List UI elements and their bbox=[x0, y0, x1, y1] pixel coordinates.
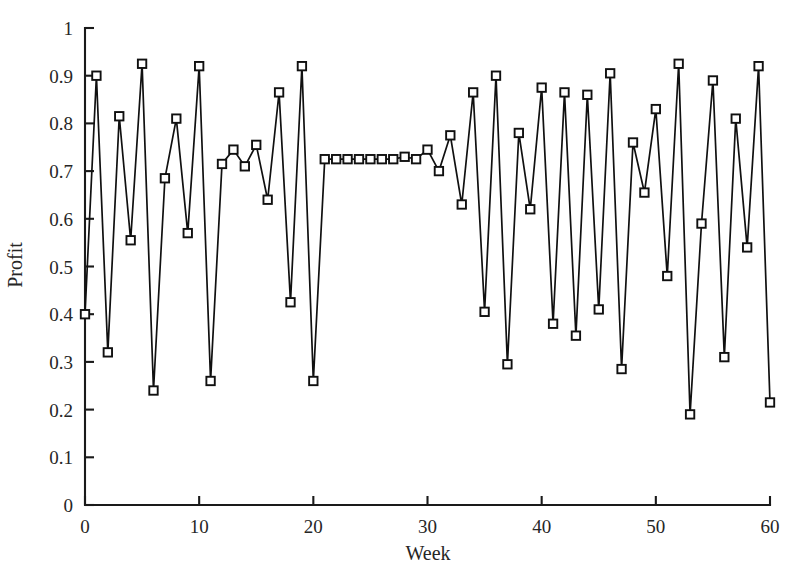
x-tick-label: 30 bbox=[418, 516, 437, 537]
data-point-marker bbox=[321, 155, 329, 163]
data-point-marker bbox=[720, 353, 728, 361]
y-tick-label: 0.7 bbox=[49, 161, 73, 182]
data-point-marker bbox=[595, 305, 603, 313]
data-point-marker bbox=[92, 72, 100, 80]
data-point-marker bbox=[206, 377, 214, 385]
data-point-marker bbox=[309, 377, 317, 385]
data-point-marker bbox=[126, 236, 134, 244]
data-point-marker bbox=[332, 155, 340, 163]
data-point-marker bbox=[218, 160, 226, 168]
data-point-marker bbox=[435, 167, 443, 175]
data-point-marker bbox=[766, 398, 774, 406]
data-point-marker bbox=[458, 200, 466, 208]
data-point-marker bbox=[697, 219, 705, 227]
data-point-marker bbox=[537, 83, 545, 91]
data-point-marker bbox=[663, 272, 671, 280]
x-tick-label: 60 bbox=[761, 516, 780, 537]
data-point-marker bbox=[515, 129, 523, 137]
data-point-marker bbox=[229, 145, 237, 153]
data-point-marker bbox=[503, 360, 511, 368]
data-point-marker bbox=[686, 410, 694, 418]
x-tick-label: 20 bbox=[304, 516, 323, 537]
profit-series-markers bbox=[81, 60, 774, 419]
profit-vs-week-line-chart: 00.10.20.30.40.50.60.70.80.91 0102030405… bbox=[0, 0, 791, 588]
data-point-marker bbox=[263, 196, 271, 204]
data-point-marker bbox=[389, 155, 397, 163]
data-point-marker bbox=[446, 131, 454, 139]
x-tick-label: 50 bbox=[646, 516, 665, 537]
data-point-marker bbox=[652, 105, 660, 113]
data-point-marker bbox=[617, 365, 625, 373]
y-tick-label: 0.3 bbox=[49, 352, 73, 373]
data-point-marker bbox=[583, 91, 591, 99]
data-point-marker bbox=[526, 205, 534, 213]
data-point-marker bbox=[640, 188, 648, 196]
data-point-marker bbox=[549, 320, 557, 328]
data-point-marker bbox=[195, 62, 203, 70]
x-tick-label: 0 bbox=[80, 516, 90, 537]
y-tick-label: 0.1 bbox=[49, 447, 73, 468]
x-axis-tick-labels: 0102030405060 bbox=[80, 516, 779, 537]
chart-figure: 00.10.20.30.40.50.60.70.80.91 0102030405… bbox=[0, 0, 791, 588]
data-point-marker bbox=[400, 153, 408, 161]
data-point-marker bbox=[149, 386, 157, 394]
data-point-marker bbox=[81, 310, 89, 318]
y-tick-label: 0 bbox=[64, 495, 74, 516]
y-tick-label: 0.5 bbox=[49, 257, 73, 278]
y-tick-label: 0.2 bbox=[49, 400, 73, 421]
y-tick-label: 0.9 bbox=[49, 66, 73, 87]
data-point-marker bbox=[184, 229, 192, 237]
data-point-marker bbox=[560, 88, 568, 96]
data-point-marker bbox=[732, 114, 740, 122]
data-point-marker bbox=[572, 331, 580, 339]
y-tick-label: 0.8 bbox=[49, 113, 73, 134]
data-point-marker bbox=[412, 155, 420, 163]
data-point-marker bbox=[629, 138, 637, 146]
data-point-marker bbox=[138, 60, 146, 68]
data-point-marker bbox=[709, 76, 717, 84]
data-point-marker bbox=[492, 72, 500, 80]
data-point-marker bbox=[252, 141, 260, 149]
data-point-marker bbox=[674, 60, 682, 68]
data-point-marker bbox=[172, 114, 180, 122]
x-tick-label: 40 bbox=[532, 516, 551, 537]
x-tick-label: 10 bbox=[190, 516, 209, 537]
y-tick-label: 0.4 bbox=[49, 304, 73, 325]
y-tick-label: 1 bbox=[64, 18, 74, 39]
y-axis-tick-labels: 00.10.20.30.40.50.60.70.80.91 bbox=[49, 18, 73, 516]
data-point-marker bbox=[115, 112, 123, 120]
data-point-marker bbox=[286, 298, 294, 306]
profit-series-line bbox=[85, 64, 770, 415]
data-point-marker bbox=[606, 69, 614, 77]
y-tick-label: 0.6 bbox=[49, 209, 73, 230]
data-point-marker bbox=[423, 145, 431, 153]
data-point-marker bbox=[743, 243, 751, 251]
data-point-marker bbox=[469, 88, 477, 96]
data-point-marker bbox=[298, 62, 306, 70]
data-point-marker bbox=[366, 155, 374, 163]
data-point-marker bbox=[378, 155, 386, 163]
data-point-marker bbox=[754, 62, 762, 70]
data-point-marker bbox=[241, 162, 249, 170]
data-point-marker bbox=[104, 348, 112, 356]
data-point-marker bbox=[355, 155, 363, 163]
data-point-marker bbox=[343, 155, 351, 163]
x-axis-title: Week bbox=[405, 542, 450, 564]
data-point-marker bbox=[161, 174, 169, 182]
data-point-marker bbox=[480, 308, 488, 316]
data-point-marker bbox=[275, 88, 283, 96]
y-axis-title: Profit bbox=[4, 242, 26, 288]
